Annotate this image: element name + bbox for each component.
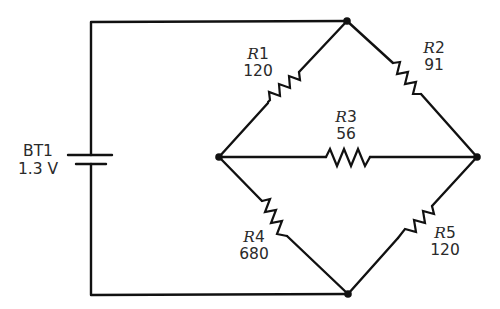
wire-top [91, 21, 347, 155]
battery-label: BT1 1.3 V [12, 142, 64, 178]
resistor-r4 [219, 157, 348, 294]
node-right [473, 153, 481, 161]
wire-bottom [91, 164, 348, 295]
battery-voltage: 1.3 V [12, 160, 64, 178]
resistor-r5-label: R5 120 [425, 225, 465, 259]
resistor-r3-ref: R3 [328, 109, 364, 126]
resistor-r2-label: R2 91 [416, 40, 452, 74]
node-bottom [344, 290, 352, 298]
resistor-r5-value: 120 [425, 242, 465, 259]
resistor-r4-label: R4 680 [234, 229, 274, 263]
resistor-r4-value: 680 [234, 246, 274, 263]
resistor-r1-ref: R1 [238, 46, 278, 63]
resistor-r1-value: 120 [238, 63, 278, 80]
resistor-r3 [219, 149, 477, 166]
battery-bt1-symbol [68, 155, 112, 164]
resistor-r5-ref: R5 [425, 225, 465, 242]
resistor-r3-label: R3 56 [328, 109, 364, 143]
node-top [343, 17, 351, 25]
battery-ref: BT1 [12, 142, 64, 160]
resistor-r2 [347, 21, 477, 157]
resistor-r4-ref: R4 [234, 229, 274, 246]
resistor-r3-value: 56 [328, 126, 364, 143]
resistor-r2-ref: R2 [416, 40, 452, 57]
resistor-r1-label: R1 120 [238, 46, 278, 80]
resistor-r2-value: 91 [416, 57, 452, 74]
node-left [215, 153, 223, 161]
